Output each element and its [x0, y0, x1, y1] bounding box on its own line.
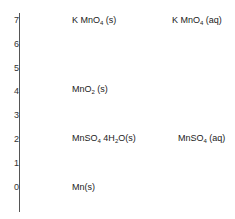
tick-6: 6: [9, 39, 19, 49]
species-kmno4-aqueous: K MnO4 (aq): [172, 15, 222, 25]
tick-4: 4: [9, 86, 19, 96]
tick-1: 1: [9, 158, 19, 168]
species-kmno4-solid: K MnO4 (s): [72, 15, 116, 25]
tick-3: 3: [9, 110, 19, 120]
species-mnso4-aqueous: MnSO4 (aq): [178, 133, 225, 143]
tick-0: 0: [9, 182, 19, 192]
tick-2: 2: [9, 134, 19, 144]
species-mn-solid: Mn(s): [72, 182, 95, 192]
tick-5: 5: [9, 63, 19, 73]
tick-7: 7: [9, 15, 19, 25]
species-mno2-solid: MnO2 (s): [72, 84, 108, 94]
oxidation-state-axis: [19, 13, 20, 212]
species-mnso4-hydrate-solid: MnSO4 4H2O(s): [72, 133, 136, 143]
